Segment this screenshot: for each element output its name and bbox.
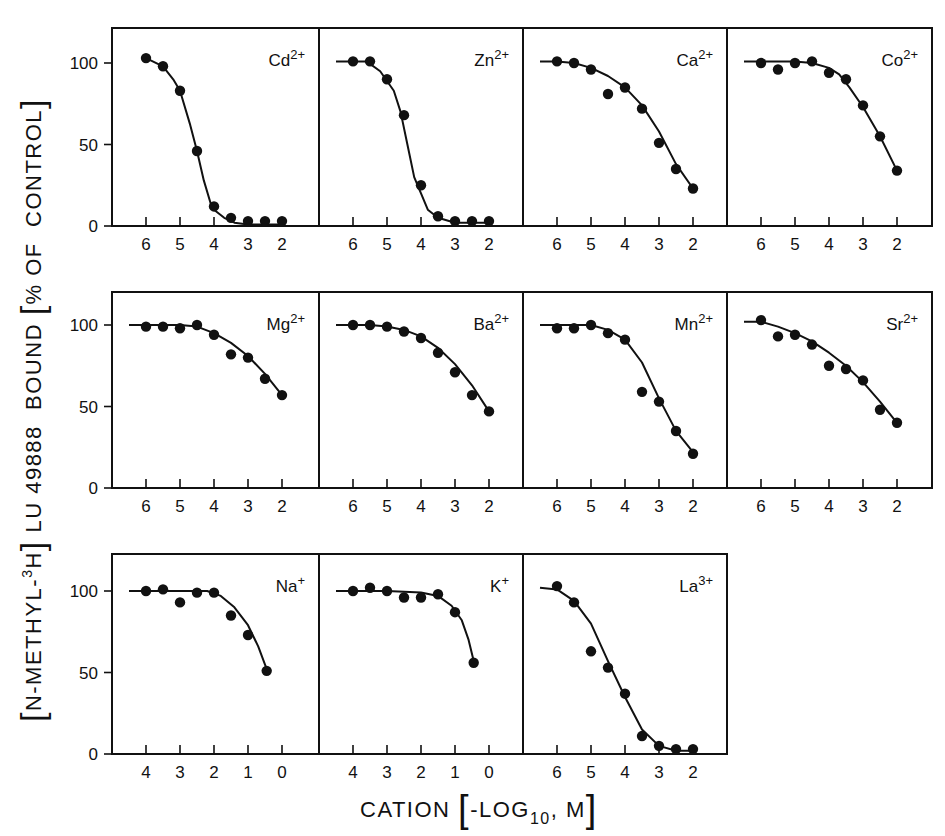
data-point (637, 731, 647, 741)
data-point (365, 320, 375, 330)
y-label-isotope-sup: 3 (19, 569, 35, 578)
data-point (416, 333, 426, 343)
x-tick-label: 2 (688, 763, 697, 782)
data-point (484, 406, 494, 416)
y-label-unit: % OF CONTROL (21, 109, 46, 305)
y-tick-label: 50 (79, 664, 98, 683)
data-point (892, 418, 902, 428)
data-point (348, 56, 358, 66)
y-axis-label-wrap: [N-METHYL-3H] LU 49888 BOUND [% OF CONTR… (8, 20, 56, 800)
x-tick-label: 3 (654, 497, 663, 516)
data-point (192, 320, 202, 330)
data-point (790, 58, 800, 68)
data-point (365, 56, 375, 66)
data-point (620, 688, 630, 698)
x-tick-label: 2 (277, 497, 286, 516)
data-point (552, 56, 562, 66)
data-point (688, 183, 698, 193)
data-point (552, 323, 562, 333)
data-point (654, 741, 664, 751)
data-point (348, 320, 358, 330)
x-tick-label: 6 (348, 497, 357, 516)
data-point (586, 646, 596, 656)
x-tick-label: 3 (243, 235, 252, 254)
x-tick-label: 6 (141, 235, 150, 254)
data-point (773, 64, 783, 74)
data-point (552, 581, 562, 591)
fit-curve (540, 61, 693, 188)
x-tick-label: 6 (552, 235, 561, 254)
ion-label: K+ (490, 573, 509, 596)
x-tick-label: 4 (141, 763, 150, 782)
data-point (158, 584, 168, 594)
x-tick-label: 3 (450, 497, 459, 516)
data-point (260, 216, 270, 226)
data-point (484, 216, 494, 226)
x-tick-label: 4 (620, 763, 629, 782)
data-point (382, 74, 392, 84)
fit-curve (744, 322, 897, 423)
data-point (243, 352, 253, 362)
x-label-log: -LOG (470, 797, 530, 822)
ion-label: Zn2+ (474, 47, 509, 70)
data-point (875, 405, 885, 415)
y-tick-label: 0 (89, 479, 98, 498)
ion-label: Cd2+ (268, 47, 305, 70)
ion-label: Ba2+ (473, 311, 509, 334)
x-tick-label: 6 (348, 235, 357, 254)
x-tick-label: 5 (790, 235, 799, 254)
panel-mg: 65432050100Mg2+ (70, 292, 319, 516)
data-point (586, 64, 596, 74)
data-point (569, 58, 579, 68)
ion-label: Co2+ (881, 47, 918, 70)
data-point (637, 387, 647, 397)
data-point (416, 180, 426, 190)
data-point (226, 610, 236, 620)
x-tick-label: 5 (175, 497, 184, 516)
data-point (654, 138, 664, 148)
data-point (382, 321, 392, 331)
x-tick-label: 2 (688, 235, 697, 254)
panel-ba: 65432Ba2+ (319, 292, 523, 516)
data-point (637, 103, 647, 113)
x-tick-label: 5 (586, 235, 595, 254)
data-point (348, 586, 358, 596)
data-point (243, 216, 253, 226)
data-point (756, 315, 766, 325)
x-tick-label: 0 (277, 763, 286, 782)
x-tick-label: 4 (416, 235, 425, 254)
data-point (243, 630, 253, 640)
data-point (467, 216, 477, 226)
x-axis-label: CATION [-LOG10, M] (360, 788, 598, 831)
data-point (824, 68, 834, 78)
data-point (688, 449, 698, 459)
data-point (399, 592, 409, 602)
x-tick-label: 5 (790, 497, 799, 516)
data-point (175, 323, 185, 333)
x-tick-label: 4 (620, 497, 629, 516)
figure: 65432050100Cd2+65432Zn2+65432Ca2+65432Co… (0, 0, 945, 836)
data-point (569, 597, 579, 607)
data-point (603, 662, 613, 672)
x-tick-label: 3 (450, 235, 459, 254)
y-tick-label: 0 (89, 217, 98, 236)
x-tick-label: 6 (756, 497, 765, 516)
data-point (671, 426, 681, 436)
x-label-text: CATION (360, 797, 458, 822)
bracket-open: [ (458, 788, 470, 830)
x-tick-label: 3 (654, 235, 663, 254)
x-tick-label: 1 (450, 763, 459, 782)
data-point (671, 744, 681, 754)
plot-grid: 65432050100Cd2+65432Zn2+65432Ca2+65432Co… (0, 0, 945, 836)
x-tick-label: 2 (892, 497, 901, 516)
x-tick-label: 4 (416, 497, 425, 516)
x-tick-label: 4 (824, 235, 833, 254)
data-point (158, 321, 168, 331)
data-point (603, 89, 613, 99)
data-point (671, 164, 681, 174)
data-point (141, 321, 151, 331)
data-point (450, 216, 460, 226)
fit-curve (129, 591, 267, 669)
x-tick-label: 6 (756, 235, 765, 254)
x-tick-label: 2 (892, 235, 901, 254)
